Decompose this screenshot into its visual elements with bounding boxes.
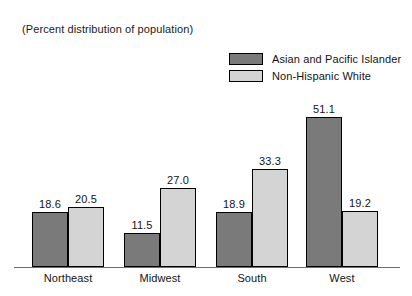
plot-area: 18.6 20.5 11.5 27.0 18.9 xyxy=(0,0,412,296)
bar-south-series-1 xyxy=(216,212,252,267)
bar-value-midwest-series-2: 27.0 xyxy=(160,174,196,186)
bar-midwest-series-1 xyxy=(124,233,160,267)
bar-value-west-series-2: 19.2 xyxy=(342,197,378,209)
bar-value-south-series-1: 18.9 xyxy=(216,198,252,210)
bar-northeast-series-1 xyxy=(32,212,68,267)
bar-value-west-series-1: 51.1 xyxy=(306,103,342,115)
bar-west-series-1 xyxy=(306,117,342,267)
bar-value-northeast-series-2: 20.5 xyxy=(68,193,104,205)
x-axis-line xyxy=(14,267,400,268)
bar-chart: (Percent distribution of population) Asi… xyxy=(0,0,412,296)
bar-value-northeast-series-1: 18.6 xyxy=(32,198,68,210)
bar-northeast-series-2 xyxy=(68,207,104,267)
bar-value-south-series-2: 33.3 xyxy=(252,155,288,167)
bar-west-series-2 xyxy=(342,211,378,267)
bar-value-midwest-series-1: 11.5 xyxy=(124,219,160,231)
x-tick-label-west: West xyxy=(282,272,402,284)
bar-midwest-series-2 xyxy=(160,188,196,267)
bar-south-series-2 xyxy=(252,169,288,267)
